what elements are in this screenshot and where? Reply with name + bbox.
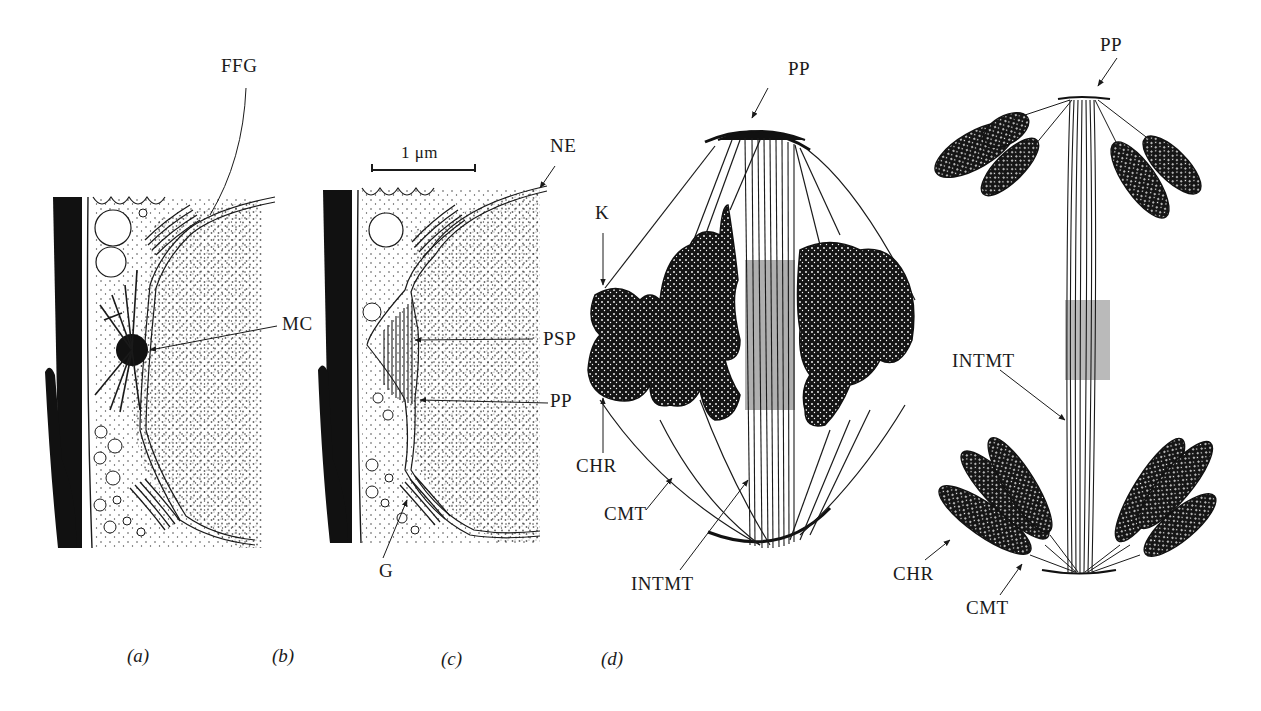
chromosome-mass-left [588,205,740,420]
label-mc: MC [282,313,313,335]
caption-c: (c) [441,648,462,670]
scale-bar-label: 1 μm [401,143,438,163]
caption-a: (a) [127,645,149,667]
caption-d: (d) [601,648,623,670]
label-g: G [379,560,393,582]
scale-bar [372,164,475,172]
label-pp-c: PP [788,58,810,80]
label-pp-d: PP [1100,34,1122,56]
figure-drawing [0,0,1261,711]
chromosome-mass-right [798,243,914,427]
label-k: K [595,202,609,224]
label-chr-c: CHR [576,455,617,477]
panel-c-drawing [588,88,915,570]
panel-a-drawing [45,197,275,548]
label-cmt-d: CMT [966,597,1009,619]
label-psp: PSP [543,328,576,350]
label-intmt-c: INTMT [631,573,694,595]
label-ffg: FFG [221,55,257,77]
label-chr-d: CHR [893,563,934,585]
label-ne: NE [550,135,576,157]
label-pp-b: PP [550,390,572,412]
label-intmt-d: INTMT [952,350,1015,372]
label-cmt-c: CMT [604,503,647,525]
caption-b: (b) [272,645,294,667]
panel-b-drawing [318,164,547,543]
panel-d-drawing [925,58,1224,595]
